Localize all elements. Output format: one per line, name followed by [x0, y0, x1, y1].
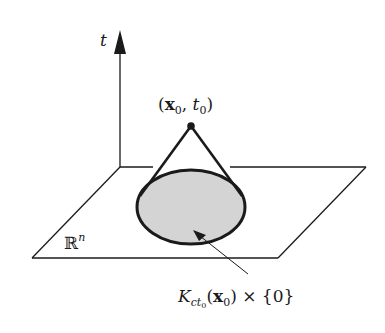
light-cone-diagram: t (x0, t0) ℝn Kct0(x0) × {0}: [0, 0, 385, 333]
plane-label: ℝn: [64, 231, 85, 253]
apex-label: (x0, t0): [158, 94, 213, 117]
diagram-canvas: t (x0, t0) ℝn Kct0(x0) × {0}: [0, 0, 385, 333]
cone-base-disk: [137, 170, 245, 244]
t-axis: [114, 30, 126, 167]
base-label: Kct0(x0) × {0}: [177, 286, 294, 310]
t-axis-arrowhead-icon: [114, 30, 126, 54]
apex-point: [187, 122, 195, 130]
t-axis-label: t: [100, 30, 107, 50]
